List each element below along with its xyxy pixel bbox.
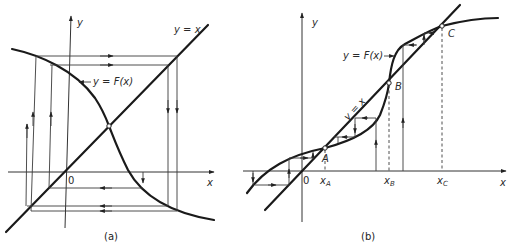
caption-a: (a) bbox=[104, 231, 118, 242]
tick-label-xA: xA bbox=[319, 175, 331, 188]
fixed-point-B bbox=[387, 81, 391, 85]
origin-label-b: 0 bbox=[303, 175, 309, 186]
identity-line-label-a: y = x bbox=[173, 24, 201, 35]
tick-label-xC: xC bbox=[436, 175, 448, 188]
figure-canvas: y x 0 y = x y = F(x) bbox=[0, 0, 514, 248]
fixed-point-a bbox=[107, 124, 111, 128]
identity-line-label-b: y = x bbox=[341, 95, 368, 123]
curve-F-b bbox=[247, 18, 498, 193]
x-axis-label-a: x bbox=[206, 177, 213, 188]
panel-b: y x 0 y = x y = F(x) bbox=[243, 5, 506, 242]
cobweb-line bbox=[49, 65, 52, 188]
y-axis-label-a: y bbox=[76, 17, 84, 28]
origin-label-a: 0 bbox=[68, 175, 74, 186]
fixed-point-label-A: A bbox=[321, 153, 329, 164]
fixed-point-label-C: C bbox=[448, 28, 455, 39]
fixed-point-label-B: B bbox=[395, 81, 402, 92]
y-axis-a bbox=[65, 16, 71, 228]
curve-label-a: y = F(x) bbox=[92, 76, 133, 87]
x-axis-label-b: x bbox=[499, 177, 506, 188]
fixed-point-C bbox=[440, 24, 444, 28]
y-axis-label-b: y bbox=[311, 17, 319, 28]
tick-label-xB: xB bbox=[383, 175, 395, 188]
caption-b: (b) bbox=[361, 231, 375, 242]
cobweb-line bbox=[31, 56, 36, 211]
fixed-point-A bbox=[323, 146, 327, 150]
curve-label-b: y = F(x) bbox=[342, 50, 383, 61]
panel-a: y x 0 y = x y = F(x) bbox=[6, 16, 214, 242]
